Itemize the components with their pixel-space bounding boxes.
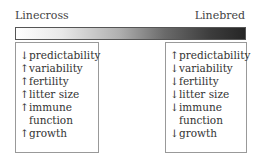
- trait-text: fertility: [179, 75, 219, 88]
- arrow-icon: ↑: [20, 127, 29, 140]
- arrow-icon: ↓: [170, 127, 179, 140]
- arrow-icon: [170, 114, 179, 127]
- linebred-label: Linebred: [195, 9, 245, 22]
- trait-item: ↓variability: [170, 62, 246, 75]
- arrow-icon: ↓: [170, 101, 179, 114]
- arrow-icon: ↓: [170, 75, 179, 88]
- trait-text: fertility: [29, 75, 69, 88]
- arrow-icon: ↑: [170, 49, 179, 62]
- trait-text: predictability: [29, 49, 100, 62]
- arrow-icon: ↑: [20, 88, 29, 101]
- arrow-icon: ↑: [20, 75, 29, 88]
- trait-text: litter size: [179, 88, 229, 101]
- trait-text: variability: [29, 62, 83, 75]
- trait-item: function: [170, 114, 246, 127]
- trait-item: ↓immune: [170, 101, 246, 114]
- trait-item: ↓litter size: [170, 88, 246, 101]
- trait-text: growth: [29, 127, 67, 140]
- linecross-traits-box: ↓predictability ↑variability ↑fertility …: [15, 42, 99, 153]
- gradient-scale-bar: [15, 27, 246, 40]
- arrow-icon: ↓: [170, 62, 179, 75]
- trait-text: immune: [179, 101, 222, 114]
- trait-item: ↓growth: [170, 127, 246, 140]
- arrow-icon: [20, 114, 29, 127]
- trait-item: ↑predictability: [170, 49, 246, 62]
- arrow-icon: ↓: [170, 88, 179, 101]
- trait-item: ↓predictability: [20, 49, 98, 62]
- trait-text: function: [179, 114, 223, 127]
- trait-text: predictability: [179, 49, 250, 62]
- arrow-icon: ↓: [20, 49, 29, 62]
- trait-text: growth: [179, 127, 217, 140]
- linebred-traits-box: ↑predictability ↓variability ↓fertility …: [165, 42, 247, 153]
- trait-text: variability: [179, 62, 233, 75]
- arrow-icon: ↑: [20, 101, 29, 114]
- trait-text: immune: [29, 101, 72, 114]
- trait-item: ↑immune: [20, 101, 98, 114]
- trait-item: function: [20, 114, 98, 127]
- trait-text: function: [29, 114, 73, 127]
- trait-item: ↑litter size: [20, 88, 98, 101]
- trait-item: ↑growth: [20, 127, 98, 140]
- arrow-icon: ↑: [20, 62, 29, 75]
- linecross-label: Linecross: [15, 9, 69, 22]
- trait-item: ↑variability: [20, 62, 98, 75]
- trait-item: ↓fertility: [170, 75, 246, 88]
- trait-item: ↑fertility: [20, 75, 98, 88]
- trait-text: litter size: [29, 88, 79, 101]
